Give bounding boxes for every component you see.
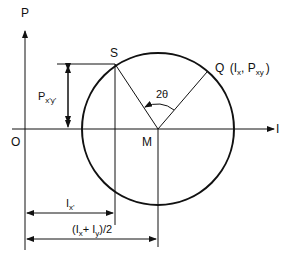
angle-arc [145, 104, 174, 110]
s-point-label: S [110, 46, 118, 60]
q-point-label: Q (Ix, Pxy) [215, 61, 270, 77]
i-axis-label: I [276, 122, 279, 136]
origin-label: O [11, 135, 20, 149]
center-label: M [142, 135, 152, 149]
average-label: (Ix+ Iy)/2 [72, 223, 112, 238]
p-axis-label: P [21, 6, 29, 20]
radius-ms [115, 64, 158, 129]
ix-label: Ix' [66, 197, 75, 212]
angle-label: 2θ [156, 88, 168, 100]
pxy-label: Px'y' [38, 90, 57, 105]
radius-mq [158, 72, 207, 129]
mohr-circle-diagram: P I O 2θ S Q (Ix, Pxy) M Px'y' Ix' (Ix+ … [0, 0, 285, 254]
